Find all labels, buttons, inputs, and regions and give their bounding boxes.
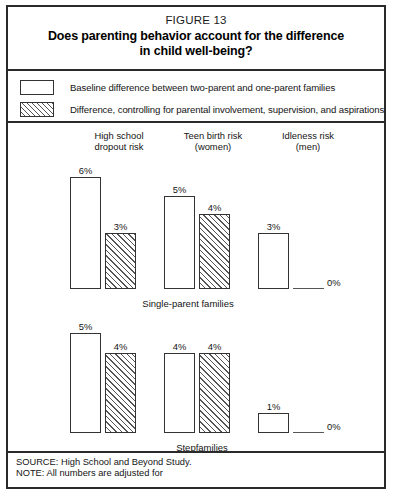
bar-controlled (105, 353, 136, 433)
legend-swatch-open-square-icon (20, 80, 54, 95)
column-header-idleness-risk: Idleness risk (men) (253, 130, 363, 152)
bar-controlled (199, 353, 230, 433)
column-header-line-1: Teen birth risk (158, 130, 268, 141)
legend-label-controlled: Difference, controlling for parental inv… (70, 104, 384, 115)
note-line: NOTE: All numbers are adjusted for (16, 468, 378, 479)
bar-group-dropout-risk: 5% 4% (70, 333, 166, 433)
bar-wrap-controlled: 0% (293, 177, 324, 289)
figure-title-block: FIGURE 13 Does parenting behavior accoun… (8, 7, 384, 71)
bar-value-baseline: 1% (258, 401, 289, 412)
figure-container: FIGURE 13 Does parenting behavior accoun… (6, 5, 386, 489)
bar-controlled-zero (293, 288, 324, 289)
column-header-line-2: (men) (253, 141, 363, 152)
bar-group-teen-birth-risk: 4% 4% (164, 333, 260, 433)
source-line: SOURCE: High School and Beyond Study. (16, 457, 378, 468)
bar-value-baseline: 6% (70, 165, 101, 176)
bar-wrap-controlled: 4% (199, 177, 230, 289)
column-header-teen-birth-risk: Teen birth risk (women) (158, 130, 268, 152)
legend-label-baseline: Baseline difference between two-parent a… (70, 82, 335, 93)
bar-value-baseline: 4% (164, 341, 195, 352)
bar-wrap-controlled: 0% (293, 333, 324, 433)
legend-item-baseline: Baseline difference between two-parent a… (20, 79, 335, 96)
bar-baseline (164, 196, 195, 289)
bar-controlled (105, 233, 136, 289)
panel-stepfamilies: 5% 4% 4% 4% 1% (8, 317, 384, 455)
bar-value-baseline: 5% (164, 184, 195, 195)
bar-value-controlled: 0% (327, 277, 341, 288)
bar-wrap-baseline: 3% (258, 177, 289, 289)
bar-wrap-controlled: 4% (199, 333, 230, 433)
bar-baseline (258, 233, 289, 289)
legend-swatch-hatched-square-icon (20, 102, 54, 117)
chart-legend: Baseline difference between two-parent a… (8, 71, 384, 123)
bar-baseline (164, 353, 195, 433)
bar-wrap-baseline: 6% (70, 177, 101, 289)
bar-value-controlled: 4% (105, 341, 136, 352)
column-header-line-1: Idleness risk (253, 130, 363, 141)
bar-wrap-baseline: 5% (164, 177, 195, 289)
bar-value-controlled: 4% (199, 202, 230, 213)
source-note-block: SOURCE: High School and Beyond Study. NO… (8, 451, 384, 487)
bar-baseline (258, 413, 289, 433)
bar-value-baseline: 5% (70, 321, 101, 332)
figure-title-line-1: Does parenting behavior account for the … (8, 29, 384, 44)
bar-group-dropout-risk: 6% 3% (70, 177, 166, 289)
bar-value-controlled: 4% (199, 341, 230, 352)
bar-wrap-baseline: 4% (164, 333, 195, 433)
bar-wrap-controlled: 3% (105, 177, 136, 289)
chart-plot-area: High school dropout risk Teen birth risk… (8, 123, 384, 455)
bar-value-controlled: 0% (327, 421, 341, 432)
column-header-line-2: (women) (158, 141, 268, 152)
bar-controlled-zero (293, 432, 324, 433)
bar-wrap-controlled: 4% (105, 333, 136, 433)
bar-wrap-baseline: 1% (258, 333, 289, 433)
bar-group-idleness-risk: 1% 0% (258, 333, 354, 433)
panel-caption-single-parent: Single-parent families (0, 298, 376, 309)
panel-single-parent-families: 6% 3% 5% 4% 3% (8, 159, 384, 311)
figure-number: FIGURE 13 (8, 14, 384, 26)
bar-value-controlled: 3% (105, 221, 136, 232)
legend-item-controlled: Difference, controlling for parental inv… (20, 101, 384, 118)
bar-group-idleness-risk: 3% 0% (258, 177, 354, 289)
bar-group-teen-birth-risk: 5% 4% (164, 177, 260, 289)
bar-baseline (70, 177, 101, 289)
bar-controlled (199, 214, 230, 289)
bar-wrap-baseline: 5% (70, 333, 101, 433)
bar-baseline (70, 333, 101, 433)
bar-value-baseline: 3% (258, 221, 289, 232)
figure-title-line-2: in child well-being? (8, 44, 384, 59)
